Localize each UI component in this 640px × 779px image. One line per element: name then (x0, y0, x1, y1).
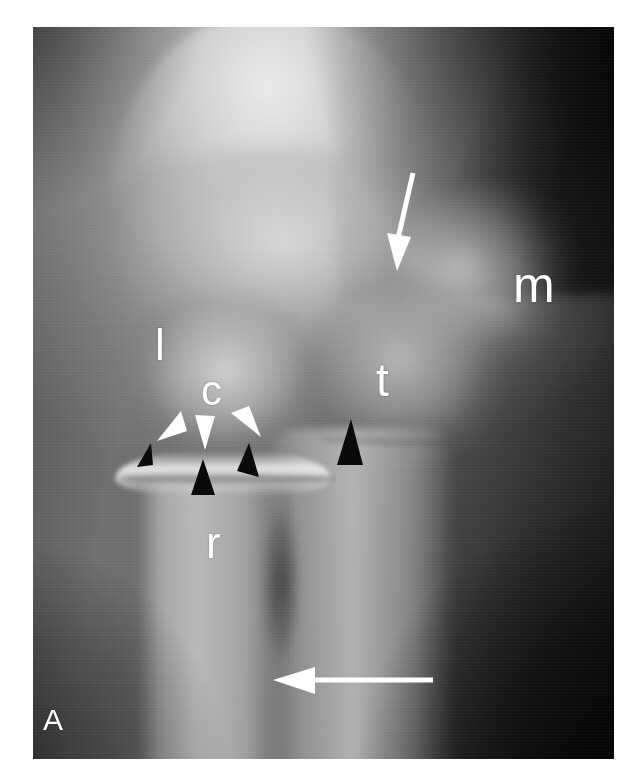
film-scanline-layer (33, 27, 614, 759)
radiograph-image: l c t m r A (33, 27, 614, 759)
page-root: l c t m r A (0, 0, 640, 779)
